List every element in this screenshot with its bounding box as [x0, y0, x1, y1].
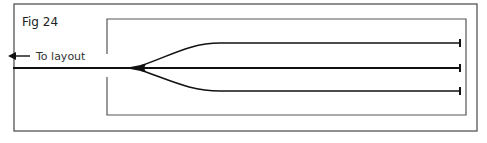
arrow-left-icon	[8, 52, 16, 60]
figure-title: Fig 24	[22, 15, 58, 29]
to-layout-label: To layout	[36, 50, 85, 63]
upper-siding-track	[140, 43, 460, 66]
inner-baseboard-outline	[107, 19, 466, 115]
lower-siding-track	[140, 70, 460, 91]
fan-of-sidings-diagram	[0, 0, 487, 143]
